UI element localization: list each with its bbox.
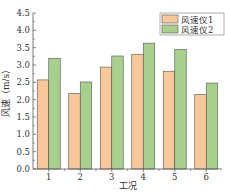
y-axis-label: 风速（m/s） bbox=[1, 65, 11, 117]
legend-swatch bbox=[162, 15, 178, 23]
bar-1-1 bbox=[37, 80, 49, 169]
legend-swatch bbox=[162, 25, 178, 33]
x-tick-label: 2 bbox=[78, 172, 83, 182]
x-tick-label: 6 bbox=[204, 172, 209, 182]
bar-2-3 bbox=[112, 56, 124, 169]
bar-1-4 bbox=[132, 54, 144, 169]
bar-1-2 bbox=[69, 93, 81, 169]
bar-2-5 bbox=[175, 49, 187, 169]
y-tick-label: 2.0 bbox=[16, 95, 30, 105]
x-tick-label: 4 bbox=[141, 172, 146, 182]
bar-2-6 bbox=[206, 83, 218, 169]
y-tick-label: 1.0 bbox=[16, 129, 30, 139]
y-tick-label: 4.0 bbox=[16, 25, 30, 35]
bar-2-1 bbox=[49, 58, 61, 169]
y-tick-label: 2.5 bbox=[16, 77, 30, 87]
bar-1-6 bbox=[195, 94, 207, 169]
y-tick-label: 4.5 bbox=[16, 8, 30, 18]
y-tick-label: 0.5 bbox=[16, 147, 30, 157]
legend: 风速仪1风速仪2 bbox=[160, 13, 224, 35]
y-tick-label: 3.5 bbox=[16, 43, 30, 53]
y-tick-label: 1.5 bbox=[16, 112, 30, 122]
x-tick-label: 5 bbox=[172, 172, 177, 182]
x-tick-label: 1 bbox=[46, 172, 51, 182]
x-axis-label: 工况 bbox=[119, 181, 137, 191]
x-tick-label: 3 bbox=[109, 172, 114, 182]
bar-2-4 bbox=[143, 43, 155, 169]
legend-label: 风速仪1 bbox=[181, 15, 213, 25]
legend-label: 风速仪2 bbox=[181, 25, 213, 35]
plot-area bbox=[37, 43, 218, 169]
bar-1-3 bbox=[100, 67, 112, 169]
y-tick-label: 3.0 bbox=[16, 60, 30, 70]
bar-chart: 0.00.51.01.52.02.53.03.54.04.5 123456 风速… bbox=[0, 0, 225, 193]
bar-2-2 bbox=[80, 82, 92, 169]
bar-1-5 bbox=[163, 71, 175, 169]
y-tick-label: 0.0 bbox=[16, 164, 30, 174]
y-axis: 0.00.51.01.52.02.53.03.54.04.5 bbox=[16, 8, 36, 174]
